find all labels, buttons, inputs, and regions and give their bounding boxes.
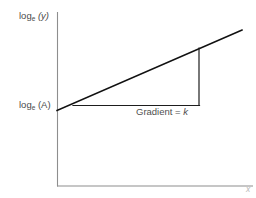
y-intercept-label: loge (A): [19, 100, 51, 111]
gradient-annotation: Gradient = k: [136, 107, 188, 117]
gradient-annotation-text: Gradient =: [136, 106, 183, 117]
y-axis-label-argument: (y): [35, 10, 49, 21]
x-axis-label: x: [246, 185, 250, 194]
gradient-annotation-symbol: k: [183, 106, 188, 117]
figure-container: loge (y) loge (A) Gradient = k x: [0, 0, 256, 198]
y-intercept-label-argument: (A): [35, 99, 50, 110]
y-axis-label-base: log: [19, 10, 32, 21]
y-intercept-label-base: log: [19, 99, 32, 110]
y-axis-label: loge (y): [19, 11, 49, 22]
trend-line: [57, 30, 242, 111]
